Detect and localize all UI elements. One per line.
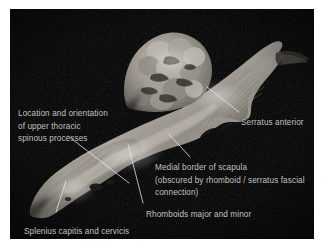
label-splenius: Splenius capitis and cervicis [24,226,129,239]
label-serratus-anterior: Serratus anterior [241,117,304,130]
leader-splenius [56,181,66,212]
dissection-photograph: Location and orientation of upper thorac… [10,9,314,239]
figure-page: Location and orientation of upper thorac… [0,0,325,249]
label-location-orientation: Location and orientation of upper thorac… [18,108,108,146]
leader-serratus-anterior [207,87,239,112]
leader-medial-border [169,134,190,157]
leader-rhomboids [128,144,143,203]
label-rhomboids: Rhomboids major and minor [146,209,251,222]
label-medial-border-scapula: Medial border of scapula (obscured by rh… [155,162,305,200]
